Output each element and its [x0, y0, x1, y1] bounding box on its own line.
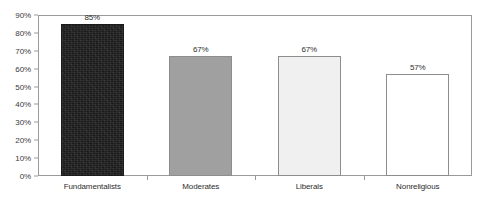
- bar-value-label: 67%: [193, 45, 209, 54]
- y-axis-tick-mark: [34, 158, 38, 159]
- y-axis-tick-mark: [34, 104, 38, 105]
- bar[interactable]: [386, 74, 449, 176]
- x-axis-tick-mark: [364, 176, 365, 180]
- y-axis-tick-mark: [34, 176, 38, 177]
- bar[interactable]: [61, 24, 124, 176]
- y-axis-tick-mark: [34, 50, 38, 51]
- x-axis-category-label: Liberals: [296, 182, 323, 191]
- y-axis-tick-mark: [34, 140, 38, 141]
- x-axis-tick-mark: [255, 176, 256, 180]
- y-axis-tick-mark: [34, 86, 38, 87]
- bar[interactable]: [278, 56, 341, 176]
- y-axis-tick-mark: [34, 68, 38, 69]
- x-axis-category-label: Nonreligious: [396, 182, 439, 191]
- bar-chart: 0%10%20%30%40%50%60%70%80%90% 85%Fundame…: [0, 0, 485, 204]
- bar-value-label: 85%: [84, 13, 100, 22]
- y-axis-tick-mark: [34, 122, 38, 123]
- x-axis-tick-mark: [147, 176, 148, 180]
- y-axis-tick-mark: [34, 15, 38, 16]
- bar[interactable]: [169, 56, 232, 176]
- x-axis-category-label: Moderates: [182, 182, 219, 191]
- bar-value-label: 57%: [410, 63, 426, 72]
- x-axis-category-label: Fundamentalists: [64, 182, 121, 191]
- bars-layer: 85%Fundamentalists67%Moderates67%Liberal…: [0, 0, 485, 204]
- bar-value-label: 67%: [301, 45, 317, 54]
- y-axis-tick-mark: [34, 32, 38, 33]
